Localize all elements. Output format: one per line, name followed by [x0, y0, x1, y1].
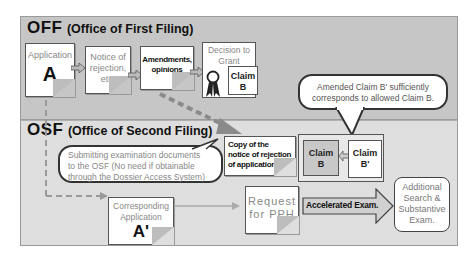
page-fold-icon: [277, 216, 299, 234]
claim-b-prime: Claim B': [348, 140, 382, 178]
additional-search-box: Additional Search & Substantive Exam.: [394, 177, 450, 232]
copy-of-notice-doc: Copy of the notice of rejection of appli…: [224, 136, 296, 176]
request-pph-doc: Request for PPH: [245, 186, 299, 234]
claim-b-osf: Claim B: [303, 140, 339, 176]
corresponding-application-doc: Corresponding Application A': [108, 197, 174, 245]
callout-tail-icon: [190, 137, 220, 151]
amendments-doc: Amendments, opinions: [140, 46, 194, 90]
page-fold-icon: [53, 79, 75, 97]
notice-of-rejection-doc: Notice of rejection, etc.: [85, 46, 131, 94]
arrow-right-icon: [71, 63, 85, 73]
application-a-doc: Application A: [25, 43, 75, 97]
callout-tail-icon: [330, 107, 370, 137]
page-fold-icon: [274, 158, 296, 176]
page-fold-icon: [152, 227, 174, 245]
off-title: OFF (Office of First Filing): [27, 18, 193, 38]
claim-correspondence-callout: Amended Claim B' sufficiently correspond…: [298, 74, 448, 110]
accelerated-exam-label: Accelerated Exam.: [306, 200, 384, 210]
arrow-right-icon: [174, 200, 244, 212]
